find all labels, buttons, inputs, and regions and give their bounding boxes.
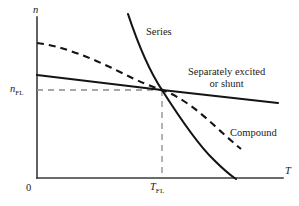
x-axis-label: T (285, 165, 291, 177)
x-tick-label-tfl: TFL (150, 181, 164, 196)
full-load-point-marker (160, 88, 163, 91)
y-tick-subscript: FL (15, 89, 24, 97)
annotation-separately-excited-or-shunt: Separately excited or shunt (188, 66, 265, 90)
y-tick-label-nfl: nFL (10, 83, 24, 98)
annotation-separately-excited-line2: or shunt (188, 78, 265, 90)
figure-container: n T 0 nFL TFL Series Separately excited … (0, 0, 299, 206)
y-axis-label: n (33, 4, 38, 16)
annotation-compound: Compound (230, 127, 277, 139)
x-tick-subscript: FL (156, 187, 165, 195)
annotation-series: Series (146, 26, 172, 38)
origin-label: 0 (26, 182, 31, 194)
annotation-separately-excited-line1: Separately excited (188, 66, 265, 78)
